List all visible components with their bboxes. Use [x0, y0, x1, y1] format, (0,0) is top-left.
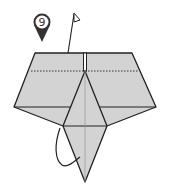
origami-diagram: 9 — [0, 0, 170, 191]
fold-arrow-shaft — [68, 14, 74, 53]
step-number: 9 — [39, 16, 46, 29]
step-badge: 9 — [34, 14, 51, 43]
fold-arrow-flag-icon — [74, 13, 80, 22]
center-slit — [84, 53, 87, 71]
